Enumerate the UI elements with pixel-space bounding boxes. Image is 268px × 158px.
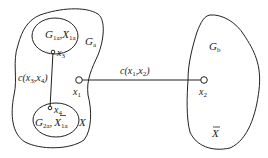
label-g1a-x1a: G1a,X1a — [45, 28, 77, 42]
label-gb: Gb — [209, 40, 221, 54]
edge-x3-x4 — [50, 52, 53, 108]
node-x4[interactable] — [48, 106, 52, 110]
label-g2a-x1a-bar: G2a,X1a — [35, 116, 69, 130]
label-x3: x3 — [56, 47, 65, 60]
label-x1: x1 — [72, 86, 81, 99]
label-x: X — [78, 116, 87, 128]
label-xbar: X — [211, 127, 220, 139]
label-c-x1-x2: c(x1,x2) — [120, 65, 150, 78]
label-ga: Ga — [85, 35, 97, 49]
node-x3[interactable] — [51, 50, 55, 54]
cut-diagram: G1a,X1a Ga x3 c(x3,x4) x1 c(x1,x2) x4 G2… — [0, 0, 268, 158]
label-c-x3-x4: c(x3,x4) — [18, 72, 48, 85]
region-gb-boundary — [187, 15, 260, 149]
label-x2: x2 — [198, 86, 207, 99]
node-x2[interactable] — [201, 77, 208, 84]
node-x1[interactable] — [76, 77, 83, 84]
